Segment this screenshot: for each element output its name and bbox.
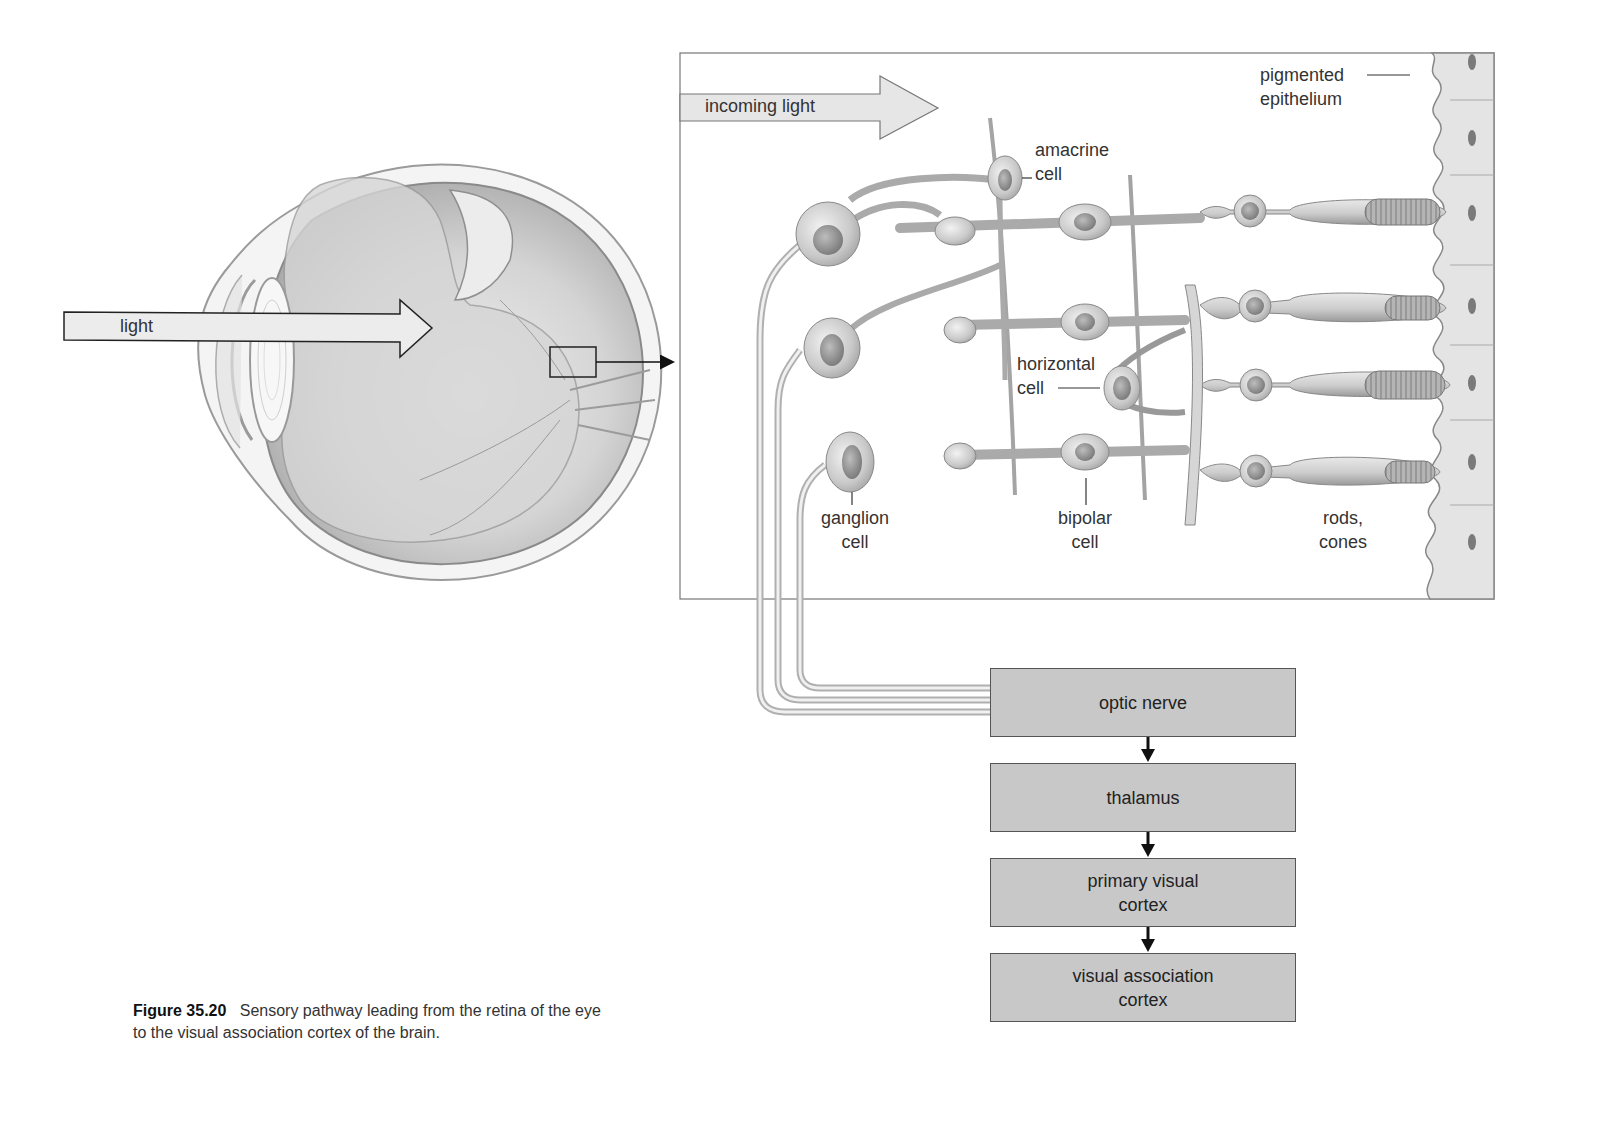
pathway-box-primary-visual-cortex: primary visual cortex <box>990 858 1296 927</box>
amacrine-cell-label-line2: cell <box>1035 162 1062 186</box>
pathway-box-visual-association-cortex: visual association cortex <box>990 953 1296 1022</box>
eye-cross-section <box>198 165 672 580</box>
rods-cones-label-line2: cones <box>1293 530 1393 554</box>
ganglion-cell-label-line2: cell <box>805 530 905 554</box>
pigmented-epithelium <box>1426 53 1494 599</box>
bipolar-cells <box>900 204 1200 470</box>
horizontal-cell-label-line2: cell <box>1017 376 1044 400</box>
bipolar-cell-label-line1: bipolar <box>1035 506 1135 530</box>
rods-cones-label-line1: rods, <box>1293 506 1393 530</box>
pathway-box-label: optic nerve <box>1099 691 1187 715</box>
pathway-box-label-line1: primary visual <box>1087 869 1198 893</box>
photoreceptors <box>1200 195 1450 487</box>
incoming-light-label: incoming light <box>705 94 815 118</box>
caption-text-line1: Sensory pathway leading from the retina … <box>240 1002 601 1019</box>
light-label: light <box>120 314 153 338</box>
figure-caption: Figure 35.20 Sensory pathway leading fro… <box>133 1000 773 1044</box>
amacrine-cell-label-line1: amacrine <box>1035 138 1109 162</box>
bipolar-cell-label-line2: cell <box>1035 530 1135 554</box>
figure-number: Figure 35.20 <box>133 1002 226 1019</box>
horizontal-cell-label-line1: horizontal <box>1017 352 1095 376</box>
pigmented-epithelium-label-line1: pigmented <box>1260 63 1344 87</box>
pathway-box-label: thalamus <box>1106 786 1179 810</box>
caption-text-line2: to the visual association cortex of the … <box>133 1022 773 1044</box>
pathway-box-optic-nerve: optic nerve <box>990 668 1296 737</box>
pathway-box-label-line2: cortex <box>1072 988 1213 1012</box>
ganglion-cell-label-line1: ganglion <box>805 506 905 530</box>
pigmented-epithelium-label-line2: epithelium <box>1260 87 1342 111</box>
diagram-canvas <box>0 0 1618 1122</box>
pathway-box-label-line1: visual association <box>1072 964 1213 988</box>
pathway-box-thalamus: thalamus <box>990 763 1296 832</box>
amacrine-cell <box>850 156 1022 380</box>
pathway-box-label-line2: cortex <box>1087 893 1198 917</box>
